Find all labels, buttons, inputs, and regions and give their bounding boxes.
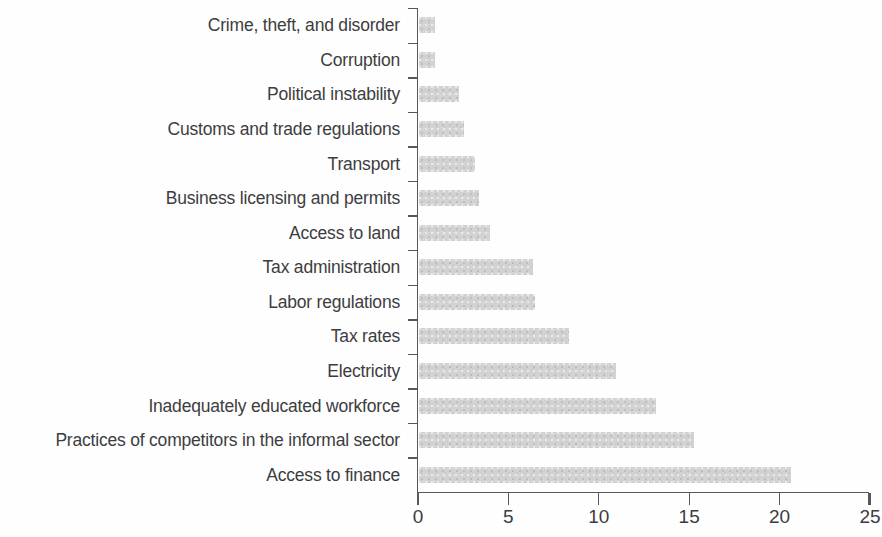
bar-row: Business licensing and permits	[0, 181, 882, 216]
bar-row: Labor regulations	[0, 285, 882, 320]
bar-row: Access to finance	[0, 457, 882, 492]
category-label: Political instability	[267, 84, 400, 105]
y-axis-tick	[408, 112, 418, 113]
y-axis-tick	[408, 146, 418, 147]
bar-row: Tax rates	[0, 319, 882, 354]
bar-row: Access to land	[0, 215, 882, 250]
category-label: Crime, theft, and disorder	[208, 15, 400, 36]
x-axis-tick-label: 5	[503, 506, 514, 528]
category-label: Access to finance	[266, 464, 400, 485]
bar	[419, 156, 475, 172]
y-axis-tick	[408, 43, 418, 44]
bar-rows: Crime, theft, and disorderCorruptionPoli…	[0, 0, 882, 537]
bar	[419, 259, 533, 275]
x-axis-tick-label: 20	[769, 506, 790, 528]
y-axis-tick	[408, 388, 418, 389]
category-label: Customs and trade regulations	[167, 119, 400, 140]
bar	[419, 190, 479, 206]
bar-row: Corruption	[0, 43, 882, 78]
category-label: Tax administration	[263, 257, 400, 278]
y-axis-tick	[408, 319, 418, 320]
bar-chart: Crime, theft, and disorderCorruptionPoli…	[0, 0, 882, 537]
bar	[419, 121, 464, 137]
bar-row: Inadequately educated workforce	[0, 388, 882, 423]
bar-row: Tax administration	[0, 250, 882, 285]
bar-row: Customs and trade regulations	[0, 112, 882, 147]
x-axis-tick	[689, 493, 690, 505]
x-axis-tick	[417, 493, 418, 505]
x-axis-tick	[869, 493, 870, 505]
y-axis-tick	[408, 215, 418, 216]
y-axis-tick	[408, 8, 418, 9]
bar	[419, 294, 535, 310]
x-axis-tick	[598, 493, 599, 505]
bar	[419, 363, 616, 379]
category-label: Practices of competitors in the informal…	[55, 430, 400, 451]
category-label: Access to land	[289, 222, 400, 243]
category-label: Tax rates	[331, 326, 400, 347]
category-label: Inadequately educated workforce	[148, 395, 400, 416]
y-axis-tick	[408, 423, 418, 424]
bar	[419, 328, 569, 344]
y-axis-tick	[408, 285, 418, 286]
bar-row: Electricity	[0, 354, 882, 389]
bar	[419, 432, 694, 448]
y-axis-tick	[408, 77, 418, 78]
bar-row: Political instability	[0, 77, 882, 112]
bar	[419, 52, 435, 68]
y-axis-tick	[408, 250, 418, 251]
bar-row: Practices of competitors in the informal…	[0, 423, 882, 458]
x-axis-tick-label: 15	[679, 506, 700, 528]
x-axis-tick	[779, 493, 780, 505]
x-axis-tick-label: 10	[588, 506, 609, 528]
y-axis-tick	[408, 181, 418, 182]
bar	[419, 467, 791, 483]
category-label: Transport	[328, 153, 400, 174]
y-axis-tick	[408, 457, 418, 458]
x-axis-tick	[508, 493, 509, 505]
y-axis-tick	[408, 354, 418, 355]
category-label: Labor regulations	[268, 291, 400, 312]
bar	[419, 17, 435, 33]
bar	[419, 398, 656, 414]
bar	[419, 86, 459, 102]
x-axis-tick-label: 0	[413, 506, 424, 528]
bar-row: Transport	[0, 146, 882, 181]
category-label: Electricity	[327, 361, 400, 382]
bar	[419, 225, 490, 241]
category-label: Corruption	[320, 49, 400, 70]
x-axis-tick-label: 25	[859, 506, 880, 528]
category-label: Business licensing and permits	[166, 188, 400, 209]
bar-row: Crime, theft, and disorder	[0, 8, 882, 43]
